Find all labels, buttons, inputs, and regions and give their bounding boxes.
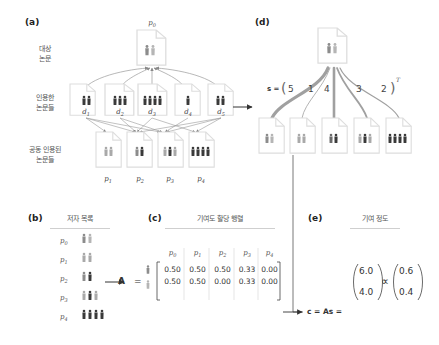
svg-text:p3: p3 [60,294,68,303]
vector-raw-1: 4.0 [359,287,373,297]
cocited-papers: p1 p2 p3 p4 [96,132,214,184]
matrix-cell: 0.50 [185,277,210,286]
col-header-p4: p4 [259,249,280,258]
matrix-col-headers: p0 p1 p2 p3 p4 [160,249,280,258]
citing-papers: d1 d2 d3 d4 d5 [70,84,233,117]
svg-text:p1: p1 [104,175,112,184]
s-value-4: 3 [356,84,362,94]
col-header-p1: p1 [185,249,210,258]
col-header-p2: p2 [210,249,235,258]
proportional-symbol: ∝ [381,275,389,288]
matrix-cell: 0.00 [259,265,280,274]
matrix-cell: 0.33 [235,277,259,286]
matrix-row-0: 0.50 0.50 0.50 0.33 0.00 [160,265,280,274]
svg-text:p4: p4 [60,313,68,322]
matrix-cell: 0.00 [210,277,235,286]
s-open-paren: ( [281,80,286,96]
svg-text:p1: p1 [60,256,68,265]
s-value-1: 5 [288,84,294,94]
equation-lhs: c = As = [307,307,342,316]
col-header-p3: p3 [235,249,259,258]
svg-text:p4: p4 [197,175,205,184]
svg-text:p2: p2 [136,175,144,184]
s-value-2: 1 [308,84,314,94]
matrix-cell: 0.50 [185,265,210,274]
matrix-A-label: A [118,276,125,286]
matrix-row-1: 0.50 0.50 0.00 0.33 0.00 [160,277,280,286]
svg-text:p0: p0 [148,19,156,28]
s-vector-label: s = [267,85,279,93]
vector-norm-0: 0.6 [399,266,413,276]
svg-text:p0: p0 [60,237,68,246]
vector-raw-0: 6.0 [359,266,373,276]
s-value-5: 2 [381,84,387,94]
s-close-paren: ) [390,80,395,96]
vector-norm-1: 0.4 [399,287,413,297]
target-paper-p0 [137,30,166,65]
matrix-cell: 0.50 [160,265,185,274]
svg-text:p3: p3 [166,175,174,184]
matrix-cell: 0.33 [235,265,259,274]
matrix-equals: = [134,276,142,286]
s-value-3: 4 [324,84,330,94]
s-transpose: T [396,76,400,83]
matrix-cell: 0.50 [160,277,185,286]
svg-text:p2: p2 [60,275,68,284]
matrix-cell: 0.00 [259,277,280,286]
col-header-p0: p0 [160,249,185,258]
matrix-cell: 0.50 [210,265,235,274]
